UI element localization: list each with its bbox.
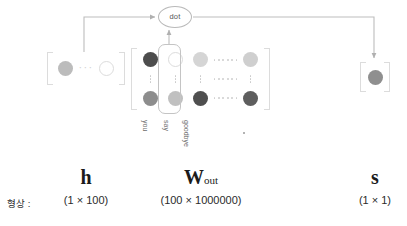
- bracket-right-w: [264, 48, 270, 110]
- h-caption-name: h: [50, 167, 122, 187]
- bracket-left-w: [131, 48, 137, 110]
- w-caption-name: Wout: [145, 167, 257, 187]
- bracket-right-h: [119, 52, 125, 85]
- shape-row-label: 형상 :: [7, 196, 30, 210]
- w-horizontal-ellipsis: [214, 78, 238, 80]
- bracket-left-s: [360, 62, 366, 92]
- w-node-filled: [143, 52, 158, 67]
- s-vector-bracket: [360, 62, 390, 92]
- w-cell-r1-c2: [200, 75, 202, 83]
- s-caption-shape: (1 × 1): [339, 195, 407, 206]
- h-ellipsis: ···: [79, 62, 94, 73]
- w-cell-r0-c4: [243, 52, 258, 67]
- w-column-label-dot-marker: [243, 132, 245, 134]
- diagram-canvas: dot ··· you say goodbye 형상 : h (1 × 100): [0, 0, 407, 226]
- bracket-left-h: [47, 52, 53, 85]
- w-name-text: W: [184, 166, 204, 188]
- h-name-text: h: [80, 166, 91, 188]
- w-vertical-ellipsis: [250, 75, 252, 83]
- h-vector-nodes: ···: [55, 52, 117, 85]
- wire-h-to-dot: [84, 17, 155, 52]
- w-cell-r0-c0: [143, 52, 158, 67]
- w-node-filled: [243, 52, 258, 67]
- w-horizontal-ellipsis: [214, 59, 238, 61]
- w-node-filled: [143, 91, 158, 106]
- h-node-filled: [58, 61, 73, 76]
- w-cell-r2-c2: [193, 91, 208, 106]
- dot-operation-node[interactable]: dot: [158, 6, 192, 28]
- w-matrix-grid: [138, 50, 263, 108]
- w-cell-r1-c3: [214, 78, 238, 80]
- w-column-label-you: you: [142, 120, 149, 131]
- w-cell-r0-c3: [214, 59, 238, 61]
- w-name-subscript: out: [204, 174, 218, 186]
- connector-wires: [0, 0, 407, 226]
- dot-node-label: dot: [169, 13, 180, 21]
- s-node-filled: [368, 70, 383, 85]
- s-name-text: s: [371, 166, 379, 188]
- w-node-filled: [193, 91, 208, 106]
- s-vector-nodes: [367, 62, 383, 92]
- h-vector-bracket: ···: [47, 52, 125, 85]
- w-cell-r1-c0: [150, 75, 152, 83]
- w-horizontal-ellipsis: [214, 97, 238, 99]
- h-node-outline: [99, 61, 114, 76]
- w-node-filled: [193, 52, 208, 67]
- s-caption-name: s: [339, 167, 407, 187]
- w-vertical-ellipsis: [200, 75, 202, 83]
- w-caption-shape: (100 × 1000000): [145, 195, 257, 206]
- h-caption-shape: (1 × 100): [50, 195, 122, 206]
- w-cell-r0-c2: [193, 52, 208, 67]
- w-cell-r1-c4: [250, 75, 252, 83]
- bracket-right-s: [384, 62, 390, 92]
- w-cell-r2-c4: [243, 91, 258, 106]
- w-node-filled: [243, 91, 258, 106]
- w-cell-r2-c3: [214, 97, 238, 99]
- w-matrix-bracket: [131, 48, 270, 110]
- w-column-label-goodbye: goodbye: [183, 120, 190, 147]
- w-column-label-say: say: [163, 120, 170, 131]
- w-cell-r2-c0: [143, 91, 158, 106]
- w-selected-column-highlight[interactable]: [158, 44, 181, 114]
- w-vertical-ellipsis: [150, 75, 152, 83]
